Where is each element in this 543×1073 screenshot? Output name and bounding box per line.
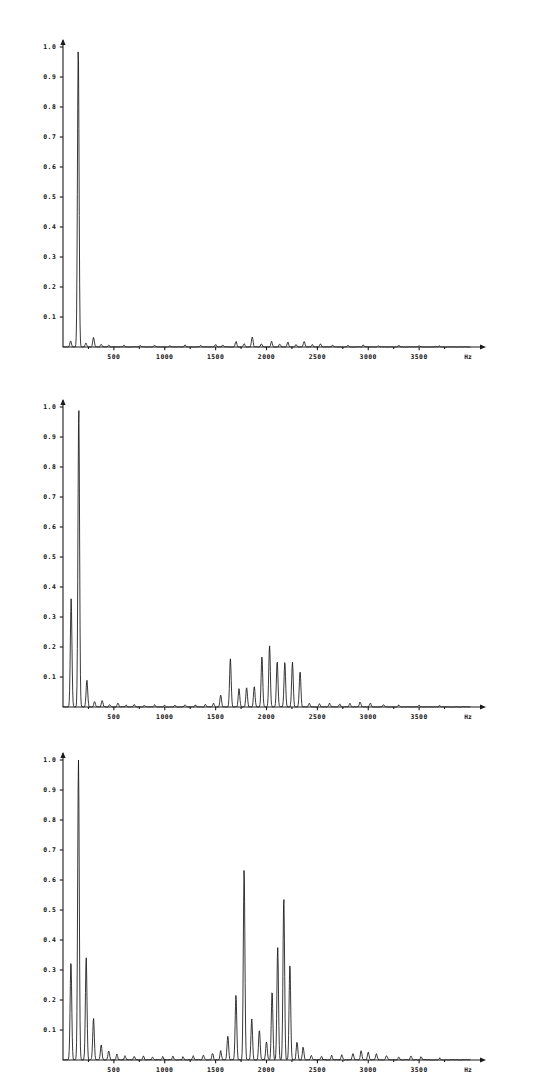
x-tick-label: 3500	[410, 1066, 427, 1073]
y-tick-label: 0.1	[43, 1026, 56, 1034]
y-tick-label: 0.8	[43, 103, 56, 111]
figure-page: 0.10.20.30.40.50.60.70.80.91.05001000150…	[0, 0, 543, 1073]
y-tick-label: 0.8	[43, 816, 56, 824]
x-axis-ticks: 500100015002000250030003500Hz	[88, 347, 472, 360]
x-axis-ticks: 500100015002000250030003500Hz	[88, 1060, 472, 1073]
y-tick-label: 0.5	[43, 906, 56, 914]
y-tick-label: 0.6	[43, 876, 56, 884]
x-tick-label: 2000	[258, 353, 275, 361]
y-tick-label: 0.5	[43, 553, 56, 561]
x-tick-label: 500	[107, 1066, 120, 1073]
x-tick-label: 3000	[360, 353, 377, 361]
y-axis-ticks: 0.10.20.30.40.50.60.70.80.91.0	[43, 403, 63, 681]
x-axis-unit-label: Hz	[464, 1066, 472, 1073]
y-axis-ticks: 0.10.20.30.40.50.60.70.80.91.0	[43, 756, 63, 1034]
y-tick-label: 0.7	[43, 493, 56, 501]
x-tick-label: 2500	[309, 353, 326, 361]
y-tick-label: 0.9	[43, 433, 56, 441]
x-tick-label: 1000	[156, 1066, 173, 1073]
x-axis-ticks: 500100015002000250030003500Hz	[88, 707, 472, 720]
y-tick-label: 0.4	[43, 583, 56, 591]
x-tick-label: 1500	[207, 713, 224, 721]
y-tick-label: 0.9	[43, 786, 56, 794]
x-axis-unit-label: Hz	[464, 713, 472, 720]
y-tick-label: 0.3	[43, 966, 56, 974]
spectrum-plot-2: 0.10.20.30.40.50.60.70.80.91.05001000150…	[0, 360, 543, 720]
y-tick-label: 1.0	[43, 403, 56, 411]
y-tick-label: 0.1	[43, 313, 56, 321]
x-tick-label: 3500	[410, 353, 427, 361]
y-tick-label: 1.0	[43, 756, 56, 764]
y-tick-label: 0.1	[43, 673, 56, 681]
y-tick-label: 0.5	[43, 193, 56, 201]
y-tick-label: 0.2	[43, 996, 56, 1004]
axes	[60, 39, 486, 350]
axes	[60, 399, 486, 710]
y-tick-label: 0.4	[43, 936, 56, 944]
spectrum-panel-2: 0.10.20.30.40.50.60.70.80.91.05001000150…	[0, 360, 543, 720]
y-tick-label: 0.9	[43, 73, 56, 81]
x-tick-label: 1500	[207, 353, 224, 361]
y-tick-label: 0.3	[43, 253, 56, 261]
y-tick-label: 1.0	[43, 43, 56, 51]
spectrum-plot-1: 0.10.20.30.40.50.60.70.80.91.05001000150…	[0, 0, 543, 360]
y-tick-label: 0.8	[43, 463, 56, 471]
x-tick-label: 3500	[410, 713, 427, 721]
y-axis-ticks: 0.10.20.30.40.50.60.70.80.91.0	[43, 43, 63, 321]
y-tick-label: 0.6	[43, 163, 56, 171]
x-tick-label: 1500	[207, 1066, 224, 1073]
spectrum-panel-3: 0.10.20.30.40.50.60.70.80.91.05001000150…	[0, 720, 543, 1073]
x-tick-label: 1000	[156, 353, 173, 361]
y-tick-label: 0.6	[43, 523, 56, 531]
x-axis-unit-label: Hz	[464, 353, 472, 360]
x-tick-label: 2000	[258, 1066, 275, 1073]
x-tick-label: 2000	[258, 713, 275, 721]
spectrum-panel-1: 0.10.20.30.40.50.60.70.80.91.05001000150…	[0, 0, 543, 360]
y-tick-label: 0.4	[43, 223, 56, 231]
spectrum-trace	[63, 411, 470, 707]
y-tick-label: 0.2	[43, 643, 56, 651]
spectrum-trace	[63, 52, 470, 347]
x-tick-label: 500	[107, 713, 120, 721]
y-tick-label: 0.3	[43, 613, 56, 621]
y-tick-label: 0.7	[43, 133, 56, 141]
x-tick-label: 3000	[360, 713, 377, 721]
spectrum-plot-3: 0.10.20.30.40.50.60.70.80.91.05001000150…	[0, 720, 543, 1073]
x-tick-label: 3000	[360, 1066, 377, 1073]
x-tick-label: 2500	[309, 713, 326, 721]
spectrum-trace	[63, 760, 470, 1060]
y-tick-label: 0.7	[43, 846, 56, 854]
x-tick-label: 2500	[309, 1066, 326, 1073]
y-tick-label: 0.2	[43, 283, 56, 291]
x-tick-label: 1000	[156, 713, 173, 721]
x-tick-label: 500	[107, 353, 120, 361]
